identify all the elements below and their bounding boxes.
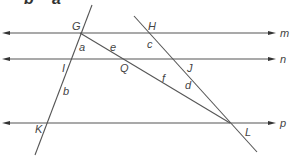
label-point-L: L <box>245 126 251 138</box>
label-line-n: n <box>280 53 286 65</box>
label-angle-f: f <box>162 72 166 84</box>
top-text-a: a <box>52 0 61 7</box>
line-m <box>2 31 276 35</box>
line-p <box>2 121 276 125</box>
label-point-Q: Q <box>120 62 129 74</box>
label-point-J: J <box>186 62 193 74</box>
geometry-diagram: b a m n p G H I J K L Q a b c d e f <box>0 0 292 157</box>
transversal-HL <box>134 16 257 152</box>
label-line-p: p <box>279 117 286 129</box>
arrow-right-icon <box>268 121 276 125</box>
label-angle-c: c <box>147 38 153 50</box>
label-point-H: H <box>148 20 156 32</box>
segment-GL <box>80 33 230 123</box>
line-n <box>2 57 276 61</box>
arrow-left-icon <box>2 31 10 35</box>
label-angle-d: d <box>185 79 192 91</box>
label-line-m: m <box>280 27 289 39</box>
label-point-K: K <box>35 123 43 135</box>
transversal-GK <box>35 5 92 155</box>
arrow-right-icon <box>268 31 276 35</box>
arrow-right-icon <box>268 57 276 61</box>
label-angle-e: e <box>110 41 116 53</box>
label-angle-a: a <box>79 41 85 53</box>
top-text-b: b <box>24 0 34 7</box>
arrow-left-icon <box>2 121 10 125</box>
label-point-I: I <box>62 62 65 74</box>
label-angle-b: b <box>63 85 69 97</box>
arrow-left-icon <box>2 57 10 61</box>
label-point-G: G <box>72 20 81 32</box>
